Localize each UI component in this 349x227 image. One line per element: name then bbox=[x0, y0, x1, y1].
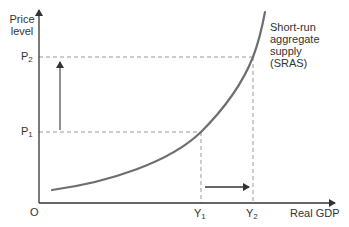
sras-curve-label: Short-run aggregate supply (SRAS) bbox=[270, 21, 320, 69]
sras-curve bbox=[52, 12, 265, 190]
sras-label-line1: Short-run bbox=[270, 21, 320, 33]
p2-label: P2 bbox=[21, 50, 33, 66]
p2-sub: 2 bbox=[28, 55, 32, 64]
p1-sub: 1 bbox=[28, 130, 32, 139]
y2-sub: 2 bbox=[253, 212, 257, 221]
y-axis-label-line1: Price bbox=[6, 13, 38, 25]
dashed-guides bbox=[39, 57, 253, 203]
sras-label-line4: (SRAS) bbox=[270, 57, 320, 69]
y-axis-label: Price level bbox=[6, 13, 38, 37]
sras-label-line3: supply bbox=[270, 45, 320, 57]
p1-label: P1 bbox=[21, 125, 33, 141]
y-axis-label-line2: level bbox=[6, 25, 38, 37]
x-axis-label: Real GDP bbox=[290, 207, 340, 219]
origin-label: O bbox=[30, 206, 39, 218]
y1-label: Y1 bbox=[194, 207, 206, 223]
sras-label-line2: aggregate bbox=[270, 33, 320, 45]
y2-label: Y2 bbox=[246, 207, 258, 223]
y1-sub: 1 bbox=[201, 212, 205, 221]
